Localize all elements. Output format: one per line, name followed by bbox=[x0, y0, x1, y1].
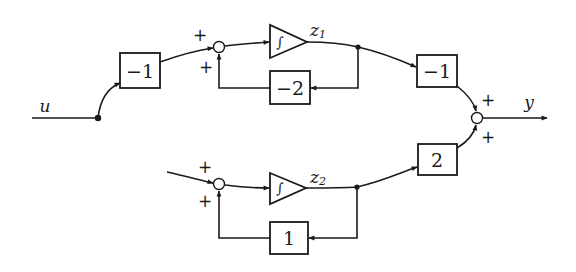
edge-z1 bbox=[307, 42, 358, 47]
edge-feedback2-to-sum2 bbox=[219, 191, 270, 238]
sum-junction-1 bbox=[214, 42, 225, 53]
input-label-u: u bbox=[40, 96, 51, 116]
edge-u-to-gain bbox=[98, 83, 120, 118]
edge-gain1-to-sumout bbox=[457, 86, 476, 111]
output-gain-1-label: −1 bbox=[423, 60, 451, 82]
edge-z2-to-output-gain2 bbox=[357, 167, 417, 187]
z1-label: z1 bbox=[309, 20, 326, 41]
edge-z1-to-output-gain1 bbox=[358, 47, 416, 67]
integrator-2-block: ∫ bbox=[270, 173, 306, 204]
z2-label: z2 bbox=[309, 167, 326, 188]
integral-icon: ∫ bbox=[276, 34, 283, 50]
sum2-sign-bottom: + bbox=[198, 191, 212, 211]
feedback-2-label: 1 bbox=[283, 227, 295, 249]
output-gain-2-label: 2 bbox=[431, 149, 443, 171]
feedback-1-block: −2 bbox=[270, 71, 310, 104]
sum1-sign-bottom: + bbox=[199, 57, 213, 77]
integrator-1-block: ∫ bbox=[270, 25, 307, 58]
output-gain-2-block: 2 bbox=[418, 144, 457, 175]
sumout-sign-bottom: + bbox=[481, 127, 495, 147]
input-gain-block: −1 bbox=[120, 53, 160, 88]
sum-junction-2 bbox=[214, 179, 225, 190]
output-label-y: y bbox=[523, 92, 534, 112]
edge-sum1-to-integrator1 bbox=[225, 42, 269, 46]
edge-z2 bbox=[306, 187, 357, 188]
edge-feedback1-to-sum1 bbox=[219, 54, 270, 88]
edge-z1-feedback bbox=[311, 47, 358, 88]
output-gain-1-block: −1 bbox=[417, 55, 457, 87]
edge-sum2-to-integrator2 bbox=[225, 185, 269, 188]
sum-junction-output bbox=[472, 113, 483, 124]
input-gain-label: −1 bbox=[126, 60, 154, 82]
sumout-sign-top: + bbox=[481, 90, 495, 110]
feedback-1-label: −2 bbox=[276, 77, 304, 99]
feedback-2-block: 1 bbox=[270, 222, 308, 254]
sum2-sign-top: + bbox=[198, 157, 212, 177]
integral-icon: ∫ bbox=[276, 180, 283, 196]
edge-gain2-to-sumout bbox=[457, 125, 476, 148]
sum1-sign-top: + bbox=[193, 25, 207, 45]
edge-z2-feedback bbox=[309, 187, 357, 238]
block-diagram: u −1 + + ∫ z1 −2 −1 + + y 2 bbox=[0, 0, 576, 272]
